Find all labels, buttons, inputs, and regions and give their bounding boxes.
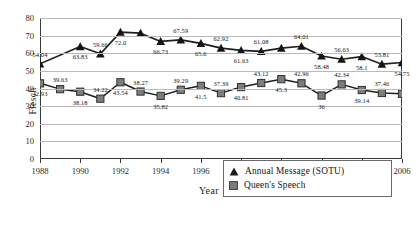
gridline xyxy=(40,53,402,54)
triangle-marker-icon xyxy=(229,167,239,176)
data-point-label: 37.39 xyxy=(214,80,229,87)
square-data-point xyxy=(358,86,365,93)
data-point-label: 45.3 xyxy=(276,86,288,93)
data-point-label: 61.63 xyxy=(234,57,249,64)
data-point-label: 56.63 xyxy=(334,46,349,53)
data-point-label: 36 xyxy=(318,103,325,110)
data-point-label: 35.82 xyxy=(153,103,168,110)
data-point-label: 62.92 xyxy=(214,35,229,42)
data-point-label: 58.1 xyxy=(356,64,368,71)
legend-item-sotu: Annual Message (SOTU) xyxy=(229,164,386,178)
y-axis-tick-label: 20 xyxy=(0,119,34,129)
gridline xyxy=(40,124,402,125)
square-data-point xyxy=(258,79,265,86)
square-data-point xyxy=(278,76,285,83)
square-data-point xyxy=(177,86,184,93)
data-point-label: 43.12 xyxy=(254,70,269,77)
data-point-label: 34.22 xyxy=(93,86,108,93)
data-point-label: 42.93 xyxy=(33,90,48,97)
square-data-point xyxy=(298,80,305,87)
data-point-label: 63.83 xyxy=(73,53,88,60)
data-point-label: 40.81 xyxy=(234,94,249,101)
square-data-point xyxy=(117,79,124,86)
gridline xyxy=(40,106,402,107)
data-point-label: 39.14 xyxy=(354,97,369,104)
y-axis-tick-label: 70 xyxy=(0,31,34,41)
data-point-label: 66.73 xyxy=(153,48,168,55)
gridline xyxy=(40,141,402,142)
square-marker-icon xyxy=(229,181,238,190)
x-axis-tick-mark xyxy=(161,159,162,163)
square-data-point xyxy=(318,92,325,99)
square-data-point xyxy=(40,80,44,87)
data-point-label: 58.48 xyxy=(314,63,329,70)
y-axis-tick-label: 50 xyxy=(0,66,34,76)
x-axis-tick-mark xyxy=(402,159,403,163)
legend-label-sotu: Annual Message (SOTU) xyxy=(245,166,344,176)
x-axis-tick-label: 1992 xyxy=(112,166,129,176)
data-point-label: 64.01 xyxy=(294,33,309,40)
square-data-point xyxy=(398,90,402,97)
y-axis-tick-label: 60 xyxy=(0,48,34,58)
square-data-point xyxy=(378,89,385,96)
data-point-label: 54.75 xyxy=(395,70,410,77)
x-axis-tick-mark xyxy=(201,159,202,163)
y-axis-tick-label: 80 xyxy=(0,13,34,23)
gridline xyxy=(40,18,402,19)
square-data-point xyxy=(238,83,245,90)
data-point-label: 61.08 xyxy=(254,38,269,45)
x-axis-tick-label: 1994 xyxy=(152,166,169,176)
triangle-data-point xyxy=(76,42,85,50)
legend-item-queens: Queen's Speech xyxy=(229,178,386,192)
data-point-label: 41.5 xyxy=(195,93,207,100)
x-axis-tick-label: 1990 xyxy=(72,166,89,176)
x-axis-tick-label: 2006 xyxy=(393,166,410,176)
data-point-label: 39.29 xyxy=(173,77,188,84)
data-point-label: 67.59 xyxy=(173,27,188,34)
legend-label-queens: Queen's Speech xyxy=(244,180,306,190)
x-axis-tick-mark xyxy=(40,159,41,163)
data-point-label: 38.27 xyxy=(133,79,148,86)
square-data-point xyxy=(97,95,104,102)
data-point-label: 42.96 xyxy=(294,70,309,77)
x-axis-tick-mark xyxy=(120,159,121,163)
y-axis-tick-labels: 01020304050607080 xyxy=(0,0,34,245)
data-point-label: 43.54 xyxy=(113,89,128,96)
y-axis-tick-label: 40 xyxy=(0,84,34,94)
y-axis-tick-label: 10 xyxy=(0,136,34,146)
data-point-label: 39.63 xyxy=(53,76,68,83)
data-point-label: 54.04 xyxy=(33,51,48,58)
square-data-point xyxy=(338,81,345,88)
data-point-label: 42.34 xyxy=(334,71,349,78)
x-axis-tick-label: 1988 xyxy=(31,166,48,176)
data-point-label: 72.0 xyxy=(115,39,127,46)
square-data-point xyxy=(217,90,224,97)
data-point-label: 59.66 xyxy=(93,41,108,48)
data-point-label: 53.81 xyxy=(374,51,389,58)
data-point-label: 37.46 xyxy=(374,80,389,87)
x-axis-tick-mark xyxy=(80,159,81,163)
square-data-point xyxy=(157,92,164,99)
y-axis-tick-label: 0 xyxy=(0,154,34,164)
x-axis-tick-label: 1996 xyxy=(192,166,209,176)
data-point-label: 65.6 xyxy=(195,50,207,57)
flesch-readability-line-chart: Flesch 01020304050607080 54.0463.8359.66… xyxy=(0,0,418,245)
data-point-label: 38.18 xyxy=(73,99,88,106)
chart-legend: Annual Message (SOTU) Queen's Speech xyxy=(223,160,392,197)
y-axis-tick-label: 30 xyxy=(0,101,34,111)
